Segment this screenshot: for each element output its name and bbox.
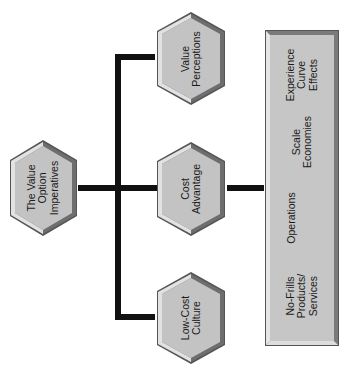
connector-bottom-branch <box>115 314 155 320</box>
connector-detail <box>227 185 264 191</box>
root-label: The Value Option Imperatives <box>25 141 61 235</box>
connector-top-branch <box>115 54 155 60</box>
branch-label-low-cost-culture: Low-Cost Culture <box>177 272 205 364</box>
detail-item-operations: Operations <box>282 173 302 263</box>
branch-label-cost-advantage: Cost Advantage <box>177 143 205 235</box>
detail-item-no-frills: No-Frills Products/ Services <box>284 251 320 341</box>
connector-trunk <box>115 54 121 320</box>
diagram-canvas: The Value Option Imperatives Value Perce… <box>0 0 344 366</box>
branch-label-value-perceptions: Value Perceptions <box>177 13 205 105</box>
